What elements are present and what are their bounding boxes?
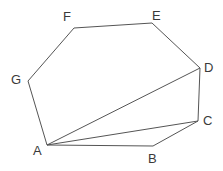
polygon-outline xyxy=(28,23,200,146)
diagonal-a-d xyxy=(47,68,200,145)
vertex-label-a: A xyxy=(33,144,42,157)
vertex-label-d: D xyxy=(204,61,213,74)
vertex-label-f: F xyxy=(63,10,71,23)
diagonal-a-c xyxy=(47,121,198,145)
vertex-label-c: C xyxy=(203,114,212,127)
vertex-label-e: E xyxy=(152,9,161,22)
vertex-label-b: B xyxy=(148,152,157,165)
geometry-figure: A B C D E F G xyxy=(0,0,223,171)
vertex-label-g: G xyxy=(11,73,21,86)
